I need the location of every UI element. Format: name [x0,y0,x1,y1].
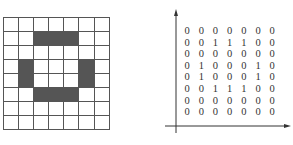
matrix-value: 1 [194,71,208,83]
matrix-value: 0 [194,83,208,95]
binary-matrix: 0000000001110000000000100010010001000111… [180,25,279,118]
matrix-value: 0 [208,60,222,72]
matrix-value: 1 [237,37,251,49]
matrix-value: 1 [223,37,237,49]
matrix-value: 0 [194,48,208,60]
matrix-value: 0 [208,106,222,118]
matrix-value: 0 [251,106,265,118]
matrix-value: 0 [180,83,194,95]
matrix-value: 0 [194,25,208,37]
matrix-value: 0 [251,25,265,37]
matrix-value: 0 [180,71,194,83]
y-axis-arrow-icon [174,9,178,16]
matrix-value: 0 [265,106,279,118]
matrix-value: 0 [265,37,279,49]
matrix-value: 0 [237,95,251,107]
matrix-value: 0 [223,106,237,118]
matrix-value: 1 [208,37,222,49]
matrix-value: 0 [237,106,251,118]
matrix-value: 0 [208,48,222,60]
matrix-value: 0 [180,60,194,72]
matrix-value: 0 [237,71,251,83]
matrix-value: 0 [194,37,208,49]
matrix-value: 0 [237,60,251,72]
matrix-value: 0 [180,48,194,60]
matrix-value: 0 [251,48,265,60]
matrix-value: 0 [223,48,237,60]
matrix-value: 0 [223,60,237,72]
matrix-value: 0 [265,71,279,83]
matrix-value: 0 [251,37,265,49]
matrix-value: 1 [237,83,251,95]
matrix-value: 1 [194,60,208,72]
matrix-value: 0 [223,25,237,37]
matrix-value: 0 [251,83,265,95]
matrix-value: 0 [265,83,279,95]
matrix-value: 0 [251,95,265,107]
matrix-value: 0 [208,71,222,83]
matrix-value: 0 [194,106,208,118]
matrix-value: 1 [251,60,265,72]
matrix-value: 0 [180,95,194,107]
matrix-value: 0 [223,95,237,107]
x-axis-arrow-icon [284,124,291,128]
matrix-value: 0 [237,25,251,37]
matrix-value: 1 [251,71,265,83]
matrix-value: 0 [237,48,251,60]
matrix-value: 0 [194,95,208,107]
matrix-value: 1 [208,83,222,95]
matrix-value: 0 [180,106,194,118]
matrix-value: 0 [265,95,279,107]
matrix-value: 0 [180,37,194,49]
matrix-value: 0 [265,48,279,60]
matrix-value: 0 [265,60,279,72]
matrix-value: 1 [223,83,237,95]
matrix-value: 0 [223,71,237,83]
matrix-value: 0 [208,25,222,37]
matrix-value: 0 [180,25,194,37]
matrix-value: 0 [265,25,279,37]
matrix-value: 0 [208,95,222,107]
